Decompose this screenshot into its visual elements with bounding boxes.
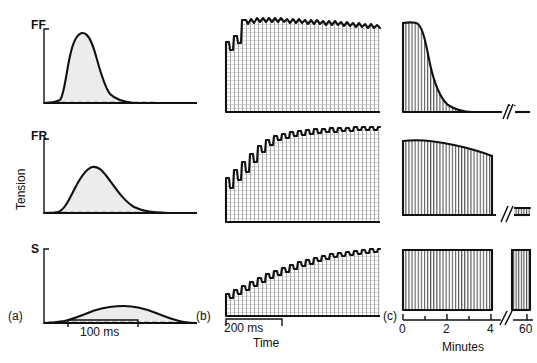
- trace-s-tetanus: [226, 249, 380, 316]
- scale-bar-label-100ms: 100 ms: [80, 326, 119, 338]
- c-axis-break-icon: [500, 311, 512, 325]
- x-axis-title-time: Time: [253, 337, 279, 349]
- c-axis-tick-2: 2: [443, 323, 450, 335]
- trace-ff-twitch: [44, 29, 197, 103]
- trace-fr-tetanus: [226, 127, 380, 222]
- y-axis-title: Tension: [14, 169, 28, 210]
- scale-bar-label-200ms: 200 ms: [224, 322, 263, 334]
- panel-b-tetanus-plots: [222, 8, 390, 318]
- trace-fr-twitch: [44, 139, 197, 213]
- c-axis-title-minutes: Minutes: [442, 341, 484, 353]
- trace-ff-fatigue: [403, 22, 530, 119]
- panel-a-twitch-plots: [40, 8, 200, 318]
- row-label-s: S: [31, 243, 39, 255]
- figure-root: Tension Time FF FR S (a) (b) (c): [0, 0, 537, 363]
- c-axis-tick-4: 4: [487, 323, 494, 335]
- panel-letter-a: (a): [8, 310, 23, 322]
- trace-fr-fatigue: [403, 140, 530, 222]
- trace-ff-tetanus: [226, 18, 380, 112]
- trace-s-twitch: [44, 249, 197, 323]
- c-axis-tick-0: 0: [399, 323, 406, 335]
- panel-c-fatigue-plots: [396, 8, 534, 318]
- c-axis-tick-60: 60: [519, 323, 532, 335]
- trace-s-fatigue: [403, 250, 533, 325]
